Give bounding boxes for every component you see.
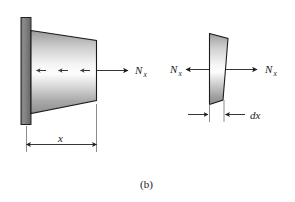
axial-force-Nx-right: N x bbox=[226, 63, 278, 78]
axial-force-Nx-right-subscript: x bbox=[273, 69, 278, 78]
axial-force-Nx-left-subscript: x bbox=[178, 69, 183, 78]
axial-force-Nx-left-diagram: N x bbox=[97, 64, 148, 79]
left-diagram-group: N x x bbox=[21, 18, 148, 153]
distance-x-dimension: x bbox=[27, 132, 97, 145]
fixed-wall-plate bbox=[21, 18, 31, 125]
engineering-diagram-svg: N x x N x bbox=[0, 0, 295, 202]
differential-slice bbox=[210, 34, 229, 105]
axial-force-Nx-left: N x bbox=[169, 63, 210, 78]
tapered-bar bbox=[31, 31, 97, 114]
dx-label: dx bbox=[250, 109, 261, 121]
distance-x-label: x bbox=[57, 132, 63, 144]
right-diagram-group: N x N x dx bbox=[169, 34, 278, 123]
axial-force-Nx-subscript: x bbox=[143, 70, 148, 79]
axial-force-Nx-right-symbol: N bbox=[264, 63, 273, 75]
axial-force-Nx-left-symbol: N bbox=[169, 63, 178, 75]
axial-force-Nx-symbol: N bbox=[134, 64, 143, 76]
figure-caption: (b) bbox=[140, 178, 153, 191]
figure-panel-b: N x x N x bbox=[0, 0, 295, 202]
